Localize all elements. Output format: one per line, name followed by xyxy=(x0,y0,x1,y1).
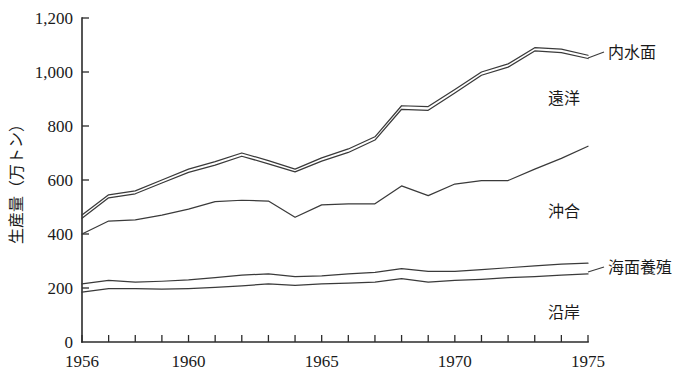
y-tick-label: 0 xyxy=(65,333,74,352)
leader-line-aquaculture xyxy=(588,267,604,272)
series-line-沿岸 xyxy=(82,274,588,292)
fisheries-production-chart: 02004006008001,0001,200 1956196019651970… xyxy=(0,0,694,391)
x-axis-tick-marks xyxy=(82,335,588,342)
y-axis-tick-labels: 02004006008001,0001,200 xyxy=(35,9,73,352)
series-label-distant: 遠洋 xyxy=(548,89,580,108)
label-leader-lines xyxy=(588,52,604,272)
series-line-遠洋 xyxy=(82,51,588,218)
y-tick-label: 1,000 xyxy=(35,63,73,82)
series-label-inland: 内水面 xyxy=(608,43,656,62)
leader-line-inland xyxy=(588,52,604,58)
x-tick-label: 1970 xyxy=(438,352,472,371)
y-tick-label: 1,200 xyxy=(35,9,73,28)
x-tick-label: 1965 xyxy=(305,352,339,371)
x-axis-tick-labels: 19561960196519701975 xyxy=(65,352,605,371)
chart-canvas: 02004006008001,0001,200 1956196019651970… xyxy=(0,0,694,391)
y-tick-label: 200 xyxy=(48,279,74,298)
y-axis-title: 生産量（万トン） xyxy=(7,116,26,244)
x-tick-label: 1975 xyxy=(571,352,605,371)
x-tick-label: 1960 xyxy=(172,352,206,371)
y-axis-tick-marks xyxy=(82,18,89,288)
y-tick-label: 600 xyxy=(48,171,74,190)
series-label-aquaculture: 海面養殖 xyxy=(608,258,672,277)
series-line-内水面 xyxy=(82,48,588,215)
series-label-coastal: 沿岸 xyxy=(548,303,580,322)
series-line-沖合 xyxy=(82,146,588,234)
y-tick-label: 400 xyxy=(48,225,74,244)
series-label-offshore: 沖合 xyxy=(548,202,580,221)
series-line-group xyxy=(82,48,588,292)
x-tick-label: 1956 xyxy=(65,352,99,371)
y-tick-label: 800 xyxy=(48,117,74,136)
series-line-海面養殖 xyxy=(82,263,588,284)
